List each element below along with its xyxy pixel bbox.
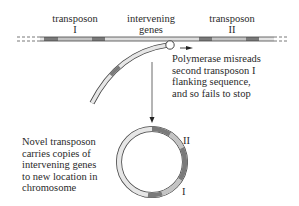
transposon-2-body bbox=[212, 37, 246, 41]
polymerase-annotation-line: and so fails to stop bbox=[172, 88, 261, 100]
label-transposon-1: transposon I bbox=[45, 13, 105, 35]
novel-annotation-line: Novel transposon bbox=[22, 136, 98, 148]
new-strand bbox=[92, 45, 168, 103]
label-transposon-2: transposon II bbox=[202, 13, 262, 35]
ring-label-transposon-2: II bbox=[183, 135, 190, 147]
label-transposon-1-line1: transposon bbox=[45, 13, 105, 24]
label-transposon-2-line1: transposon bbox=[202, 13, 262, 24]
polymerase-annotation-line: flanking sequence, bbox=[172, 76, 261, 88]
polymerase-annotation-line: second transposon I bbox=[172, 65, 261, 77]
novel-annotation-line: to new location in bbox=[22, 171, 98, 183]
chromosome-dna bbox=[17, 37, 287, 41]
ring-label-transposon-1: I bbox=[182, 186, 186, 198]
polymerase-icon bbox=[166, 41, 174, 49]
label-transposon-1-line2: I bbox=[45, 24, 105, 35]
direction-arrow-icon bbox=[180, 46, 193, 50]
label-transposon-2-line2: II bbox=[202, 24, 262, 35]
transposon-1-left-end bbox=[44, 37, 58, 41]
transposon-2-right-end bbox=[246, 37, 259, 41]
intervening-genes-segment bbox=[105, 37, 199, 41]
down-arrow-icon bbox=[150, 62, 155, 123]
transposon-1-body bbox=[58, 37, 92, 41]
polymerase-annotation: Polymerase misreads second transposon I … bbox=[172, 53, 261, 99]
novel-annotation-line: carries copies of bbox=[22, 148, 98, 160]
transposon-2-left-end bbox=[199, 37, 212, 41]
novel-transposon-annotation: Novel transposon carries copies of inter… bbox=[22, 136, 98, 194]
label-intervening-genes: intervening genes bbox=[118, 13, 184, 35]
novel-annotation-line: intervening genes bbox=[22, 159, 98, 171]
label-intervening-line2: genes bbox=[118, 24, 184, 35]
label-intervening-line1: intervening bbox=[118, 13, 184, 24]
novel-annotation-line: chromosome bbox=[22, 182, 98, 194]
transposon-1-right-end bbox=[92, 37, 105, 41]
polymerase-annotation-line: Polymerase misreads bbox=[172, 53, 261, 65]
novel-transposon-ring bbox=[119, 129, 185, 195]
